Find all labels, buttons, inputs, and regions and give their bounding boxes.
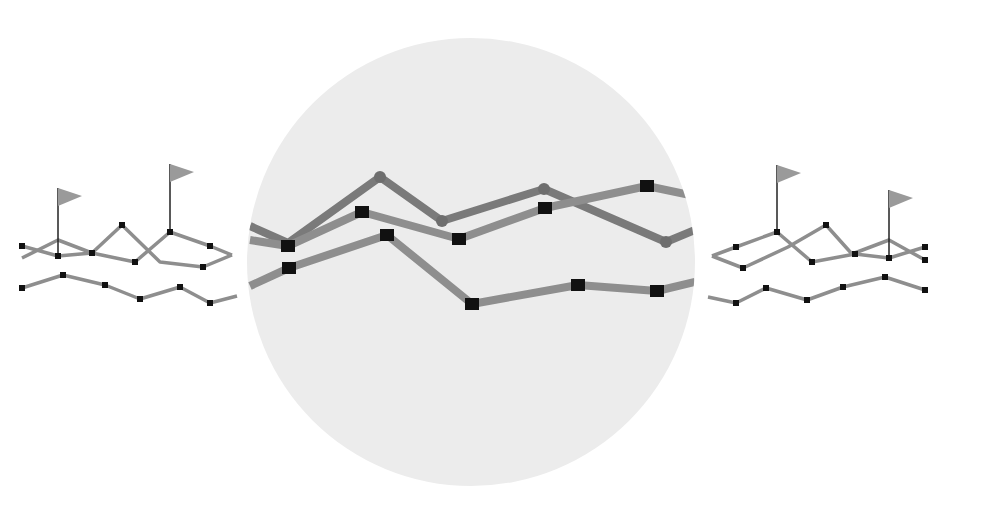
mini-marker-icon — [763, 285, 769, 291]
mini-marker-icon — [852, 251, 858, 257]
mini-marker-icon — [922, 244, 928, 250]
mini-marker-icon — [119, 222, 125, 228]
square-marker-icon — [452, 233, 466, 245]
mini-marker-icon — [804, 297, 810, 303]
mini-marker-icon — [840, 284, 846, 290]
square-marker-icon — [380, 229, 394, 241]
mini-marker-icon — [60, 272, 66, 278]
mini-marker-icon — [132, 259, 138, 265]
mini-series-line — [712, 232, 925, 262]
mini-marker-icon — [200, 264, 206, 270]
square-marker-icon — [650, 285, 664, 297]
square-marker-icon — [355, 206, 369, 218]
left-mini-chart — [19, 164, 237, 306]
circle-marker-icon — [660, 236, 672, 248]
square-marker-icon — [571, 279, 585, 291]
magnified-line-chart-diagram — [0, 0, 984, 520]
mini-marker-icon — [19, 285, 25, 291]
right-mini-chart — [708, 165, 928, 306]
mini-marker-icon — [809, 259, 815, 265]
mini-series-line — [708, 277, 925, 303]
square-marker-icon — [538, 202, 552, 214]
mini-marker-icon — [922, 257, 928, 263]
mini-marker-icon — [177, 284, 183, 290]
mini-marker-icon — [882, 274, 888, 280]
mini-series-line — [22, 275, 237, 303]
circle-marker-icon — [538, 183, 550, 195]
mini-marker-icon — [102, 282, 108, 288]
square-marker-icon — [282, 262, 296, 274]
mini-marker-icon — [733, 244, 739, 250]
mini-marker-icon — [740, 265, 746, 271]
flag-icon — [167, 164, 194, 235]
mini-marker-icon — [207, 300, 213, 306]
circle-marker-icon — [374, 171, 386, 183]
mini-marker-icon — [89, 250, 95, 256]
flag-icon — [774, 165, 801, 235]
mini-marker-icon — [19, 243, 25, 249]
mini-marker-icon — [207, 243, 213, 249]
mini-marker-icon — [922, 287, 928, 293]
square-marker-icon — [640, 180, 654, 192]
mini-marker-icon — [733, 300, 739, 306]
mini-series-line — [22, 232, 232, 262]
circle-marker-icon — [436, 215, 448, 227]
mini-marker-icon — [823, 222, 829, 228]
square-marker-icon — [465, 298, 479, 310]
mini-marker-icon — [137, 296, 143, 302]
square-marker-icon — [281, 240, 295, 252]
